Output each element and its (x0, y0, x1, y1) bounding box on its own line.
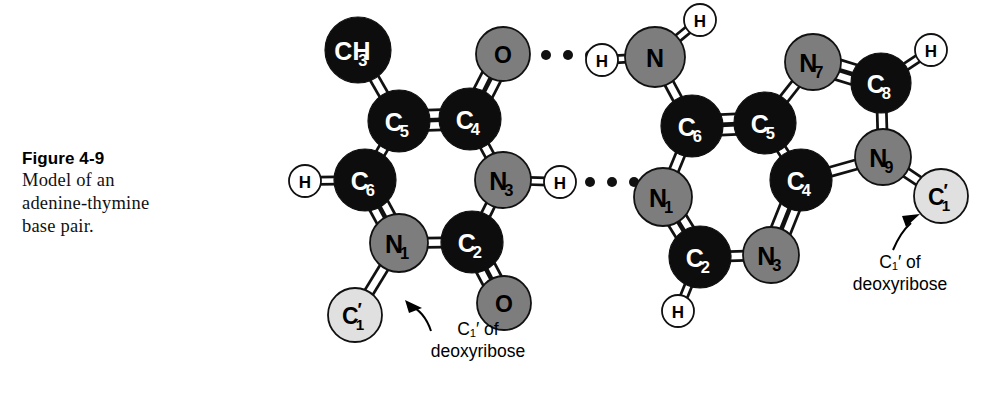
atom-subscript: 6 (693, 127, 702, 145)
atom-subscript: 2 (701, 258, 710, 276)
right-annotation-line-1: C₁′ of (879, 252, 920, 272)
base-pair-diagram: CH3C5C4OC6HN3HN1C2OC′1NHHC6C5N7C8HN9C4N1… (0, 0, 992, 393)
atom-subscript: 4 (471, 120, 481, 138)
atom-adenine-c2: C2 (669, 226, 731, 288)
atom-subscript: 7 (814, 63, 823, 81)
atom-adenine-h: H (684, 4, 716, 36)
atom-thymine-ch3: CH3 (325, 17, 391, 83)
left-annotation-line-1: C₁′ of (457, 319, 498, 339)
atom-adenine-n3: N3 (743, 227, 799, 283)
atom-label: H (925, 42, 937, 61)
atom-adenine-n: N (625, 27, 685, 87)
atom-label: N (646, 44, 664, 72)
right-annotation-arrow-curve (893, 223, 911, 250)
atom-adenine-n9: N9 (855, 129, 911, 185)
atom-subscript: 1 (356, 316, 365, 333)
atom-adenine-h: H (915, 34, 947, 66)
bond-a-n9-a-c4 (828, 164, 859, 173)
atom-subscript: 4 (802, 181, 812, 199)
atom-subscript: 5 (766, 124, 775, 142)
atom-thymine-h: H (289, 165, 321, 197)
atom-subscript: 3 (504, 181, 513, 199)
atom-adenine-c1-prime: C′1 (914, 169, 968, 223)
atom-subscript: 2 (473, 243, 482, 261)
left-annotation-line-2: deoxyribose (431, 341, 525, 361)
atom-adenine-c6: C6 (661, 95, 723, 157)
atom-thymine-c1-prime: C′1 (328, 288, 382, 342)
figure-page: Figure 4-9 Model of an adenine-thymine b… (0, 0, 992, 393)
atom-label: H (694, 12, 706, 31)
atom-label: H (672, 303, 684, 322)
right-annotation-arrowhead (902, 214, 920, 227)
atom-subscript: 1 (942, 197, 951, 214)
bond-t-n1-t-c1p (368, 265, 386, 294)
atom-thymine-o: O (476, 27, 530, 81)
atom-subscript: 6 (366, 181, 375, 199)
atom-subscript: 1 (400, 244, 409, 262)
atom-thymine-c5: C5 (368, 90, 430, 152)
atom-thymine-c4: C4 (439, 88, 501, 150)
atom-adenine-c8: C8 (851, 53, 911, 113)
atom-thymine-c2: C2 (441, 211, 503, 273)
atom-label: O (494, 42, 512, 68)
atom-thymine-n3: N3 (475, 152, 531, 208)
atom-subscript: 5 (400, 122, 409, 140)
atom-adenine-h: H (662, 295, 694, 327)
atom-adenine-c5: C5 (734, 92, 796, 154)
atom-label: H (554, 174, 566, 193)
atom-thymine-h: H (544, 166, 576, 198)
atom-thymine-c6: C6 (334, 149, 396, 211)
atom-adenine-c4: C4 (770, 149, 832, 211)
atom-subscript: 3 (772, 256, 781, 274)
atom-subscript: 3 (358, 51, 367, 69)
atom-subscript: 8 (882, 84, 891, 102)
atom-label: H (596, 52, 608, 71)
atom-label: H (299, 173, 311, 192)
atom-adenine-n7: N7 (785, 34, 841, 90)
atom-thymine-n1: N1 (370, 214, 428, 272)
atom-subscript: 9 (884, 158, 893, 176)
atom-label: O (495, 291, 513, 317)
atom-adenine-n1: N1 (634, 168, 692, 226)
hbond-lower (585, 177, 639, 187)
atom-adenine-h: H (586, 44, 618, 76)
atom-subscript: 1 (664, 198, 673, 216)
right-annotation-line-2: deoxyribose (853, 274, 947, 294)
